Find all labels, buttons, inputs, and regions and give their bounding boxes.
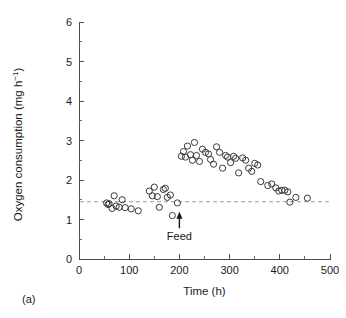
- figure-panel-a: Feed01002003004005000123456Time (h)Oxyge…: [0, 0, 346, 318]
- svg-text:400: 400: [271, 264, 289, 276]
- svg-text:1: 1: [66, 214, 72, 226]
- svg-text:3: 3: [66, 135, 72, 147]
- svg-text:(a): (a): [22, 293, 35, 305]
- svg-text:5: 5: [66, 56, 72, 68]
- svg-text:300: 300: [220, 264, 238, 276]
- svg-text:Time (h): Time (h): [183, 285, 226, 297]
- svg-text:100: 100: [120, 264, 138, 276]
- svg-text:2: 2: [66, 174, 72, 186]
- scatter-plot: Feed01002003004005000123456Time (h)Oxyge…: [0, 0, 346, 318]
- svg-text:Oxygen consumption (mg h−1): Oxygen consumption (mg h−1): [11, 68, 24, 222]
- feed-annotation: [176, 212, 182, 228]
- svg-text:Feed: Feed: [167, 230, 192, 242]
- axis-tick-labels: Feed01002003004005000123456Time (h)Oxyge…: [11, 16, 339, 305]
- svg-text:4: 4: [66, 95, 72, 107]
- svg-text:500: 500: [321, 264, 339, 276]
- svg-text:0: 0: [76, 264, 82, 276]
- svg-text:200: 200: [170, 264, 188, 276]
- svg-text:6: 6: [66, 16, 72, 28]
- svg-text:0: 0: [66, 253, 72, 265]
- axes: [79, 22, 331, 259]
- data-markers: [104, 139, 311, 218]
